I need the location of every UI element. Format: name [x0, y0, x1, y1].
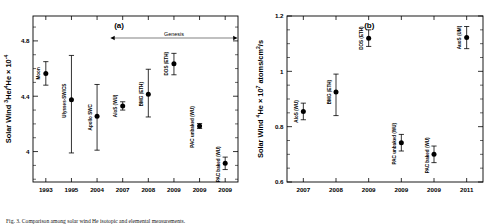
y-tick-label: 0.8 [275, 123, 284, 130]
data-point-label: Apollo SWC [88, 103, 93, 130]
data-point: BMG (ETH) [139, 69, 151, 117]
data-point-label: AloS (WU) [294, 100, 299, 123]
data-point-label: PAC baked (WU) [425, 137, 430, 173]
data-point: PAC unbaked (WU) [190, 106, 202, 148]
panel-b-svg: 0.60.811.2200720082009200920092011(b)Sol… [245, 0, 489, 224]
data-point: PAC baked (WU) [216, 146, 228, 182]
y-tick-label: 4.4 [21, 93, 30, 100]
y-tick-label: 4 [26, 148, 30, 155]
data-marker [197, 123, 202, 128]
y-tick-label: 4.8 [21, 37, 30, 44]
data-point: PAC unbaked (WU) [392, 122, 404, 164]
data-marker [301, 109, 306, 114]
panel-a-svg: 44.44.819931995200420072008200920092009(… [0, 0, 244, 224]
data-point: Moon [36, 62, 48, 86]
data-point: Ulysses-SWICS [62, 55, 74, 153]
data-marker [120, 103, 125, 108]
data-marker [146, 92, 151, 97]
data-marker [366, 36, 371, 41]
chart-panel-a: 44.44.819931995200420072008200920092009(… [0, 0, 244, 224]
data-point-label: Moon [36, 67, 41, 79]
genesis-arrow-right [233, 36, 237, 40]
x-tick-label: 2009 [362, 186, 376, 193]
x-tick-label: 2009 [427, 186, 441, 193]
plot-frame [287, 16, 483, 182]
data-point: AloS (WU) [113, 94, 125, 117]
figure-caption: Fig. 3. Comparison among solar wind He i… [0, 218, 489, 224]
data-marker [432, 152, 437, 157]
x-tick-label: 2008 [141, 186, 155, 193]
data-marker [43, 71, 48, 76]
data-marker [95, 114, 100, 119]
data-point-label: DOS (ETH) [359, 26, 364, 50]
data-point: PAC baked (WU) [425, 137, 437, 173]
data-point: Apollo SWC [88, 84, 100, 150]
figure-container: 44.44.819931995200420072008200920092009(… [0, 0, 489, 224]
y-tick-label: 0.6 [275, 178, 284, 185]
x-tick-label: 2007 [296, 186, 310, 193]
x-tick-label: 2009 [218, 186, 232, 193]
x-tick-label: 2008 [329, 186, 343, 193]
data-point: BMG (ETH) [327, 74, 339, 116]
y-tick-label: 1 [280, 68, 284, 75]
data-point-label: PAC unbaked (WU) [392, 122, 397, 164]
data-point-label: AuoS (UM) [457, 25, 462, 49]
data-point-label: PAC baked (WU) [216, 146, 221, 182]
data-point-label: BMG (ETH) [327, 79, 332, 104]
data-point: AuoS (UM) [457, 25, 469, 49]
x-tick-label: 2011 [460, 186, 474, 193]
data-point: DOS (ETH) [164, 52, 176, 76]
data-point-label: Ulysses-SWICS [62, 84, 67, 118]
x-tick-label: 2004 [90, 186, 104, 193]
data-marker [171, 61, 176, 66]
chart-panel-b: 0.60.811.2200720082009200920092011(b)Sol… [245, 0, 489, 224]
genesis-arrow-left [111, 36, 115, 40]
x-tick-label: 2009 [394, 186, 408, 193]
data-point: AloS (WU) [294, 100, 306, 123]
data-point-label: PAC unbaked (WU) [190, 106, 195, 148]
data-marker [399, 140, 404, 145]
data-point-label: BMG (ETH) [139, 82, 144, 107]
panel-label: (a) [114, 21, 124, 30]
x-tick-label: 1995 [65, 186, 79, 193]
genesis-annotation-label: Genesis [164, 31, 184, 37]
data-marker [223, 161, 228, 166]
x-tick-label: 2009 [167, 186, 181, 193]
y-axis-title: Solar Wind 3He/4He × 10-4 [3, 55, 13, 144]
x-tick-label: 2009 [193, 186, 207, 193]
data-marker [334, 90, 339, 95]
data-point-label: DOS (ETH) [164, 52, 169, 76]
panel-label: (b) [364, 21, 375, 30]
data-marker [69, 97, 74, 102]
y-axis-title: Solar Wind 4He × 107 atoms/cm2/s [255, 40, 265, 158]
data-marker [464, 35, 469, 40]
y-tick-label: 1.2 [275, 12, 284, 19]
x-tick-label: 2007 [116, 186, 130, 193]
x-tick-label: 1993 [39, 186, 53, 193]
data-point-label: AloS (WU) [113, 94, 118, 117]
